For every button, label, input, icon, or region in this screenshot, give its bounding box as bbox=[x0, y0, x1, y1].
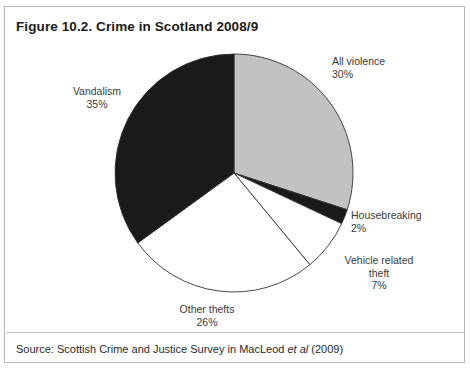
pie-label-vandalism: Vandalism 35% bbox=[49, 85, 145, 110]
pie-slice-group bbox=[115, 54, 353, 292]
pie-label-other-thefts: Other thefts 26% bbox=[145, 303, 269, 328]
source-text-suffix: (2009) bbox=[308, 343, 343, 355]
pie-label-housebreaking: Housebreaking 2% bbox=[351, 209, 461, 234]
source-text-prefix: Source: Scottish Crime and Justice Surve… bbox=[16, 343, 287, 355]
source-divider bbox=[6, 332, 465, 333]
pie-chart: All violence 30% Vandalism 35% Housebrea… bbox=[5, 7, 464, 331]
source-text-et-al: et al bbox=[287, 343, 308, 355]
pie-label-all-violence: All violence 30% bbox=[332, 55, 428, 80]
figure-frame: Figure 10.2. Crime in Scotland 2008/9 Al… bbox=[4, 6, 465, 363]
pie-label-vehicle-related-theft: Vehicle related theft 7% bbox=[330, 254, 428, 292]
figure-source: Source: Scottish Crime and Justice Surve… bbox=[16, 343, 343, 355]
